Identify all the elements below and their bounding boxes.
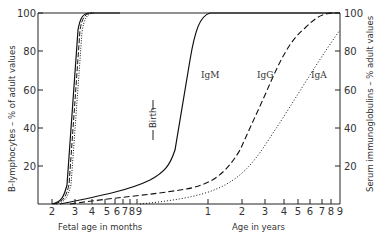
- right-y-tick-labels: 100 80 60 40 20: [344, 8, 363, 172]
- iga-label: IgA: [311, 70, 327, 80]
- fetal-curve-solid: [52, 13, 120, 204]
- x-tick-a9: 9: [337, 206, 343, 217]
- x-tick-f6: 6: [114, 206, 120, 217]
- y-tick-40: 40: [23, 123, 36, 134]
- right-tick-80: 80: [344, 46, 357, 57]
- x-tick-f3: 3: [72, 206, 78, 217]
- x-tick-a5: 5: [295, 206, 301, 217]
- igm-curve: [60, 13, 340, 204]
- x-tick-a2: 2: [239, 206, 245, 217]
- chart: 100 80 60 40 20 100 80 60 40 20 2 3 4 5: [0, 0, 380, 238]
- right-tick-60: 60: [344, 85, 357, 96]
- y-tick-100: 100: [17, 8, 36, 19]
- x-tick-a1: 1: [205, 206, 211, 217]
- y-tick-60: 60: [23, 85, 36, 96]
- x-tick-a4: 4: [281, 206, 287, 217]
- igg-curve: [70, 13, 335, 204]
- x-tick-a6: 6: [307, 206, 313, 217]
- plot-frame: [38, 13, 340, 204]
- left-y-axis-title: B-lymphocytes – % of adult values: [7, 45, 17, 192]
- ig-curves: [60, 13, 340, 204]
- fetal-curves: [52, 13, 120, 204]
- fetal-curve-dotted: [56, 13, 94, 204]
- y-tick-80: 80: [23, 46, 36, 57]
- birth-label: Birth: [148, 108, 158, 128]
- x-axis-title-fetal: Fetal age in months: [58, 222, 143, 232]
- y-tick-20: 20: [23, 161, 36, 172]
- x-axis-title-years: Age in years: [232, 222, 286, 232]
- igm-label: IgM: [201, 70, 220, 80]
- right-y-ticks: [335, 13, 340, 166]
- x-tick-f2: 2: [49, 206, 55, 217]
- x-tick-a3: 3: [262, 206, 268, 217]
- right-y-axis-title: Serum immunoglobulins – % adult values: [365, 15, 375, 192]
- x-tick-a7: 7: [319, 206, 325, 217]
- x-tick-f7: 7: [122, 206, 128, 217]
- right-tick-100: 100: [344, 8, 363, 19]
- x-tick-labels-fetal: 2 3 4 5 6 7 8 9: [49, 206, 142, 217]
- right-tick-20: 20: [344, 161, 357, 172]
- x-tick-f4: 4: [89, 206, 95, 217]
- x-tick-f8: 8: [129, 206, 135, 217]
- x-tick-f5: 5: [104, 206, 110, 217]
- x-ticks: [52, 199, 331, 204]
- x-tick-f9: 9: [136, 206, 142, 217]
- right-tick-40: 40: [344, 123, 357, 134]
- left-y-tick-labels: 100 80 60 40 20: [17, 8, 36, 172]
- birth-marker: Birth: [148, 100, 158, 140]
- iga-curve: [140, 30, 340, 204]
- x-tick-labels-years: 1 2 3 4 5 6 7 8 9: [205, 206, 343, 217]
- left-y-ticks: [38, 13, 43, 166]
- igg-label: IgG: [257, 70, 274, 80]
- x-tick-a8: 8: [328, 206, 334, 217]
